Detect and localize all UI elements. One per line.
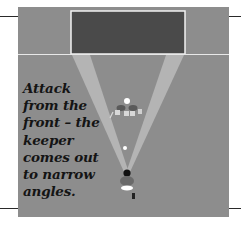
angle-beam-right <box>127 55 184 172</box>
ball-icon <box>123 146 127 150</box>
attacker-icon <box>120 169 135 199</box>
figure-caption: Attack from the front – the keeper comes… <box>23 80 113 200</box>
goal-area <box>71 11 185 54</box>
goalkeeper-icon <box>110 98 142 118</box>
